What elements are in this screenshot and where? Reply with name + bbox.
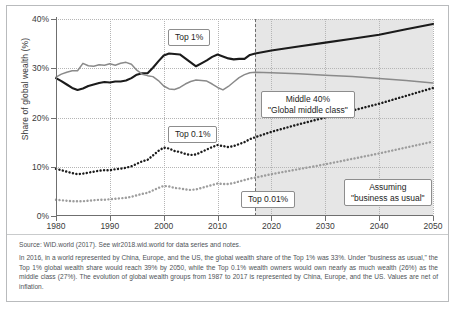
y-axis-title: Share of global wealth (%) xyxy=(20,24,30,154)
x-axis-line xyxy=(56,215,433,216)
x-tick-label-2020: 2020 xyxy=(262,221,281,231)
callout-middle40: Middle 40% "Global middle class" xyxy=(261,91,355,118)
chart-area: Share of global wealth (%) 1980199020002… xyxy=(7,6,450,234)
x-tick-label-1990: 1990 xyxy=(100,221,119,231)
y-tick-30 xyxy=(51,68,56,69)
caption-note: In 2016, in a world represented by China… xyxy=(19,253,438,291)
callout-top01: Top 0.1% xyxy=(168,126,217,143)
figure-caption: Source: WID.world (2017). See wir2018.wi… xyxy=(7,234,448,301)
x-tick-label-2000: 2000 xyxy=(154,221,173,231)
callout-top001: Top 0.01% xyxy=(241,191,295,208)
y-tick-label-20: 20% xyxy=(32,113,49,123)
callout-assuming-line1: Assuming xyxy=(351,182,425,193)
y-tick-label-40: 40% xyxy=(32,14,49,24)
x-tick-label-2040: 2040 xyxy=(370,221,389,231)
callout-assuming-line2: "business as usual" xyxy=(351,193,425,204)
callout-top1: Top 1% xyxy=(168,29,210,46)
y-tick-20 xyxy=(51,118,56,119)
y-tick-0 xyxy=(51,216,56,217)
figure-container: Share of global wealth (%) 1980199020002… xyxy=(6,5,449,302)
y-tick-label-30: 30% xyxy=(32,63,49,73)
y-axis-line xyxy=(56,17,57,216)
y-tick-label-10: 10% xyxy=(32,162,49,172)
callout-middle40-line2: "Global middle class" xyxy=(268,105,348,116)
series-line xyxy=(56,88,433,174)
series-line xyxy=(56,62,433,90)
plot-region: 198019902000201020202030204020500%10%20%… xyxy=(56,19,433,216)
x-tick-label-2010: 2010 xyxy=(208,221,227,231)
gridline-x-2050 xyxy=(433,19,434,216)
y-tick-10 xyxy=(51,167,56,168)
y-tick-40 xyxy=(51,19,56,20)
callout-assuming: Assuming "business as usual" xyxy=(344,179,432,206)
x-tick-label-2050: 2050 xyxy=(424,221,443,231)
source-line: Source: WID.world (2017). See wir2018.wi… xyxy=(19,241,438,248)
callout-middle40-line1: Middle 40% xyxy=(268,94,348,105)
series-line xyxy=(56,24,433,90)
y-tick-label-0: 0% xyxy=(37,211,49,221)
x-tick-label-1980: 1980 xyxy=(47,221,66,231)
caption-divider xyxy=(7,234,448,235)
x-tick-label-2030: 2030 xyxy=(316,221,335,231)
